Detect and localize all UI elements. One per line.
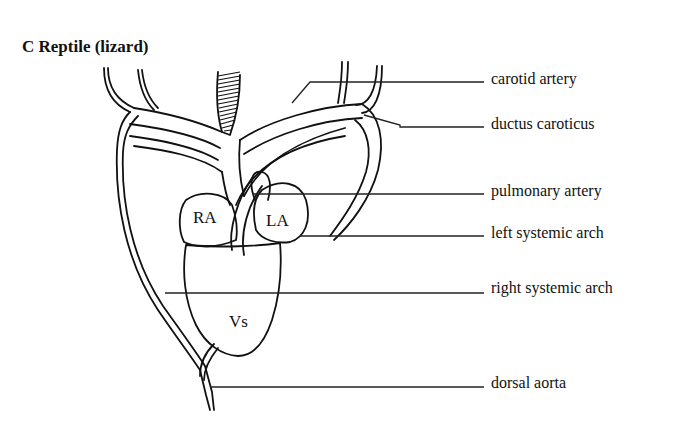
label-pulmonary-artery: pulmonary artery [491,183,602,199]
right-atrium-label: RA [193,209,217,226]
ventricle-label: Vs [229,313,248,330]
reptile-heart-diagram: C Reptile (lizard) [0,0,680,428]
right-systemic-arch-vessel [117,108,222,410]
heart-drawing [0,0,680,428]
right-carotid-branches [104,68,158,112]
label-dorsal-aorta: dorsal aorta [491,375,566,391]
label-carotid-artery: carotid artery [491,71,577,87]
label-ductus-caroticus: ductus caroticus [491,116,595,132]
left-arches [236,62,382,240]
trachea [217,72,240,135]
ventricle-outline [184,243,281,356]
label-left-systemic-arch: left systemic arch [491,225,604,241]
label-right-systemic-arch: right systemic arch [491,280,613,296]
dorsal-aorta-vessel [200,344,218,380]
left-atrium-label: LA [266,212,289,229]
